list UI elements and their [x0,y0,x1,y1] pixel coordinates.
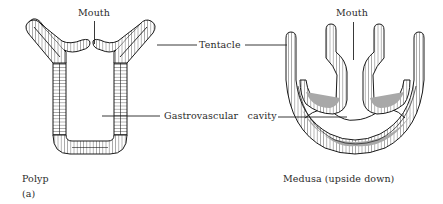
polyp-mouth-label: Mouth [78,7,110,18]
medusa-mouth-label: Mouth [336,7,368,18]
tentacle-label: Tentacle [199,39,241,50]
medusa-caption: Medusa (upside down) [283,173,394,184]
cnidarian-body-forms-figure: Mouth Tentacle Gastrovascular cavity Pol… [0,0,443,204]
polyp-drawing [26,19,155,154]
medusa-drawing [286,24,424,154]
gastrovascular-cavity-label: Gastrovascular cavity [164,110,277,121]
panel-label: (a) [22,188,35,199]
polyp-caption: Polyp [22,173,49,184]
